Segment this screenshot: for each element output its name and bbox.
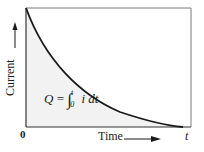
charge-formula: Q = ∫t0 i dt [44, 88, 98, 108]
x-axis-label: Time [98, 129, 123, 144]
lower-limit: 0 [70, 100, 74, 109]
origin-label: 0 [20, 128, 26, 140]
upper-limit: t [71, 88, 73, 97]
x-axis-arrow-icon [124, 136, 161, 142]
end-time-label: t [185, 129, 188, 144]
shaded-area-under-curve [26, 8, 183, 127]
formula-equals: = [57, 91, 64, 106]
formula-lhs: Q [44, 91, 53, 106]
y-axis-arrow-icon [13, 22, 18, 48]
y-axis-label: Current [3, 59, 18, 96]
integrand: i dt [81, 91, 98, 106]
charge-integral-diagram: Current Time 0 t Q = ∫t0 i dt [0, 0, 204, 152]
